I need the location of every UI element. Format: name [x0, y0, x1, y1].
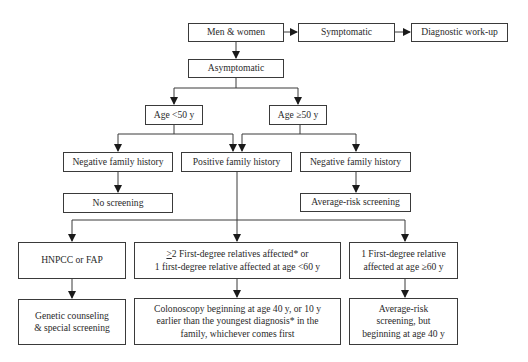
node-line-1: Colonoscopy beginning at age 40 y, or 10… [154, 303, 321, 316]
node-line-2: earlier than the youngest diagnosis* in … [157, 315, 319, 328]
node-asymptomatic: Asymptomatic [188, 59, 284, 78]
node-label: Men & women [207, 26, 265, 39]
node-diagnostic-workup: Diagnostic work-up [411, 23, 508, 42]
node-age-under-50: Age <50 y [145, 105, 203, 125]
node-one-relative: 1 First-degree relative affected at age … [349, 242, 458, 279]
node-positive-family-history: Positive family history [181, 152, 292, 172]
node-line-1: Average-risk [379, 303, 428, 316]
node-label: Average-risk screening [311, 196, 400, 209]
node-line-1: Genetic counseling [35, 310, 109, 323]
node-label: HNPCC or FAP [41, 254, 103, 267]
node-no-screening: No screening [63, 193, 173, 213]
node-line-1: 1 First-degree relative [361, 248, 446, 261]
node-line-2: 1 first-degree relative affected at age … [155, 261, 320, 274]
node-line-2: affected at age ≥60 y [363, 261, 443, 274]
node-label: Negative family history [72, 156, 163, 169]
node-average-risk-screening: Average-risk screening [300, 193, 411, 212]
node-hnpcc-fap: HNPCC or FAP [18, 242, 126, 279]
node-label: Asymptomatic [208, 62, 265, 75]
node-line-1: >2 First-degree relatives affected* or [166, 248, 308, 261]
node-genetic-counseling: Genetic counseling & special screening [18, 299, 126, 345]
node-negative-family-history-right: Negative family history [300, 152, 411, 172]
node-label: Symptomatic [321, 26, 372, 39]
node-multiple-relatives: >2 First-degree relatives affected* or 1… [134, 242, 341, 279]
node-label: Age <50 y [154, 109, 195, 122]
node-line-2: & special screening [34, 322, 110, 335]
node-label: Diagnostic work-up [421, 26, 497, 39]
node-colonoscopy: Colonoscopy beginning at age 40 y, or 10… [134, 298, 341, 345]
node-negative-family-history-left: Negative family history [63, 152, 173, 172]
node-line-3: beginning at age 40 y [362, 328, 445, 341]
node-label: No screening [93, 197, 144, 210]
node-label: Positive family history [193, 156, 280, 169]
node-average-risk-age-40: Average-risk screening, but beginning at… [349, 298, 458, 345]
node-line-2: screening, but [377, 315, 431, 328]
node-label: Negative family history [310, 156, 401, 169]
node-label: Age ≥50 y [278, 109, 318, 122]
node-line-3: family, whichever comes first [181, 328, 295, 341]
node-men-women: Men & women [188, 23, 284, 42]
node-age-50-plus: Age ≥50 y [269, 105, 327, 125]
node-symptomatic: Symptomatic [298, 23, 395, 42]
